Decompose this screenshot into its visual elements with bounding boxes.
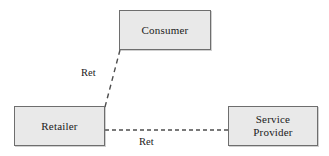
node-service-provider[interactable]: Service Provider: [228, 106, 318, 146]
node-retailer-label: Retailer: [41, 120, 77, 133]
edge-retailer-consumer: [105, 50, 120, 107]
node-consumer[interactable]: Consumer: [119, 10, 211, 50]
diagram-canvas: Consumer Retailer Service Provider Ret R…: [0, 0, 329, 156]
edge-label-retailer-service-provider: Ret: [139, 136, 154, 148]
node-consumer-label: Consumer: [142, 24, 189, 37]
node-service-provider-label: Service Provider: [253, 113, 292, 139]
edge-label-retailer-consumer: Ret: [81, 67, 96, 79]
node-retailer[interactable]: Retailer: [14, 106, 105, 146]
